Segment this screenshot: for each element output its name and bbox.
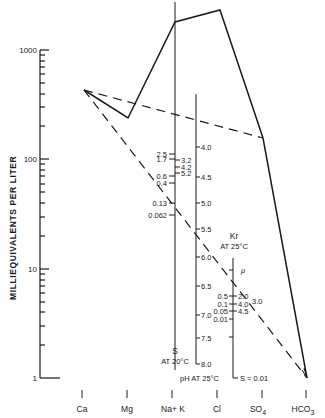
x-axis-ticks [82, 390, 306, 398]
kr-tick-3-0: 3.0 [252, 297, 262, 306]
kr-bottom-label: S = 0.01 [240, 374, 268, 383]
ion-label-hco3: HCO3 [292, 404, 315, 416]
ph-tick-7-0: 7.0 [201, 311, 211, 320]
y-tick-1000: 1000 [19, 46, 37, 55]
ph-scale [196, 94, 200, 364]
kr-scale [229, 258, 238, 378]
ph-tick-6-5: 6.5 [201, 282, 211, 291]
kr-tick-4-5: 4.5 [238, 307, 248, 316]
y-axis [40, 50, 60, 378]
y-tick-1: 1 [33, 374, 38, 383]
ion-label-na-k: Na+ K [161, 404, 185, 414]
ion-label-cl: Cl [213, 404, 221, 414]
y-tick-10: 10 [28, 265, 37, 274]
dashed-line-ca-so4 [84, 90, 263, 138]
y-tick-100: 100 [24, 155, 38, 164]
s-tick-0-4: 0.4 [157, 179, 167, 188]
kr-scale-sublabel: AT 25°C [220, 242, 248, 251]
ph-tick-7-5: 7.5 [201, 334, 211, 343]
kr-tick-0-01: 0.01 [213, 315, 228, 324]
kr-scale-label: Kr [230, 231, 239, 241]
s-scale-label: S [172, 346, 178, 356]
ph-tick-4-5: 4.5 [201, 173, 211, 182]
s-tick-0-062: 0.062 [148, 211, 167, 220]
s-scale-sublabel: AT 20°C [161, 357, 189, 366]
ph-tick-6-0: 6.0 [201, 253, 211, 262]
ph-scale-label: pH AT 25°C [180, 374, 220, 383]
ph-tick-8-0: 8.0 [201, 360, 211, 369]
y-axis-label: MILLIEQUIVALENTS PER LITER [8, 156, 18, 300]
s-scale [169, 2, 180, 370]
ion-label-so4: SO4 [250, 404, 266, 416]
ion-label-mg: Mg [121, 404, 133, 414]
ph-tick-5-0: 5.0 [201, 199, 211, 208]
s-tick-0-13: 0.13 [152, 199, 167, 208]
ph-tick-5-5: 5.5 [201, 225, 211, 234]
schoeller-diagram: 1000 100 10 1 MILLIEQUIVALENTS PER LITER… [0, 0, 325, 418]
mu-label: μ [240, 266, 245, 275]
ion-label-ca: Ca [77, 404, 88, 414]
ph-tick-4-0: 4.0 [201, 143, 211, 152]
s-tick-5-2: 5.2 [181, 169, 191, 178]
s-tick-1-7: 1.7 [157, 155, 167, 164]
